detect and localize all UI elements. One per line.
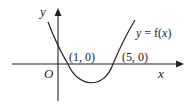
origin-label: O xyxy=(44,66,54,81)
y-axis-label: y xyxy=(38,4,46,19)
point-label-1-0: (1, 0) xyxy=(69,50,95,64)
point-label-5-0: (5, 0) xyxy=(122,50,148,64)
function-graph: y O x (1, 0) (5, 0) y = f(x) xyxy=(0,0,188,105)
y-axis-arrow-icon xyxy=(55,8,62,16)
x-axis-arrow-icon xyxy=(176,61,184,68)
curve-label: y = f(x) xyxy=(135,26,171,40)
x-axis-label: x xyxy=(157,66,164,81)
